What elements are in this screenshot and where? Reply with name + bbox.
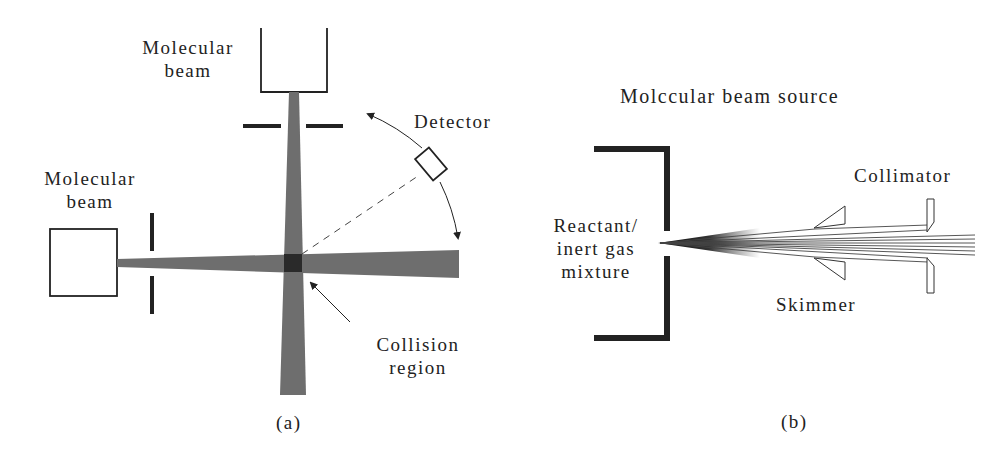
label-collision-region: Collision region — [358, 333, 478, 379]
top-beam-source-box — [261, 28, 327, 92]
top-slit-left — [243, 124, 281, 128]
left-slit-bottom — [150, 276, 154, 314]
panel-b-title: Molccular beam source — [620, 85, 839, 108]
label-detector: Detector — [414, 110, 491, 133]
label-skimmer: Skimmer — [776, 293, 856, 316]
skimmer-top — [814, 206, 845, 228]
caption-a: (a) — [276, 411, 302, 434]
skimmer-bottom — [814, 258, 845, 280]
label-top-beam-source: Molecular beam — [126, 36, 250, 82]
label-left-beam-source: Molecular beam — [28, 167, 152, 213]
caption-b: (b) — [781, 410, 808, 433]
collimator-top — [927, 199, 934, 232]
detector-sightline — [302, 176, 418, 254]
label-reservoir: Reactant/ inert gas mixture — [534, 214, 658, 283]
left-beam-source-box — [50, 229, 117, 296]
detector-icon — [415, 147, 447, 180]
collimator-bottom — [927, 258, 934, 293]
left-slit-top — [150, 213, 154, 251]
vertical-beam — [280, 92, 306, 395]
top-slit-right — [306, 124, 343, 128]
label-collimator: Collimator — [854, 164, 951, 187]
collision-pointer — [311, 283, 350, 322]
collision-region — [284, 254, 302, 272]
